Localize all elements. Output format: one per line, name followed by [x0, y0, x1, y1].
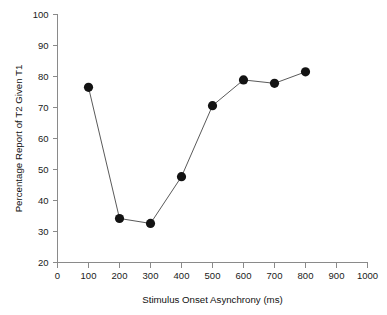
series-line: [89, 72, 306, 224]
y-tick-label: 30: [38, 226, 49, 237]
y-axis-title: Percentage Report of T2 Given T1: [13, 65, 24, 213]
x-tick-label: 0: [55, 270, 60, 281]
x-tick-label: 400: [174, 270, 190, 281]
y-axis-ticks: 2030405060708090100: [33, 9, 58, 268]
data-point-marker: [146, 219, 155, 228]
x-tick-label: 300: [143, 270, 159, 281]
x-axis-title: Stimulus Onset Asynchrony (ms): [142, 294, 283, 305]
y-tick-label: 50: [38, 164, 49, 175]
y-tick-label: 70: [38, 102, 49, 113]
data-point-marker: [177, 172, 186, 181]
y-tick-label: 20: [38, 257, 49, 268]
chart-series: [84, 67, 310, 228]
y-tick-label: 100: [33, 9, 49, 20]
y-tick-label: 40: [38, 195, 49, 206]
data-point-marker: [208, 101, 217, 110]
x-tick-label: 200: [112, 270, 128, 281]
x-tick-label: 800: [298, 270, 314, 281]
data-point-marker: [239, 75, 248, 84]
data-point-marker: [270, 79, 279, 88]
x-tick-label: 700: [267, 270, 283, 281]
x-tick-label: 500: [205, 270, 221, 281]
chart-figure: 2030405060708090100010020030040050060070…: [0, 0, 387, 315]
x-tick-label: 1000: [357, 270, 378, 281]
axis-titles: Stimulus Onset Asynchrony (ms)Percentage…: [13, 65, 283, 305]
x-tick-label: 900: [329, 270, 345, 281]
x-axis-ticks: 01002003004005006007008009001000: [55, 263, 378, 282]
data-point-marker: [84, 83, 93, 92]
chart-axes: [58, 14, 369, 263]
chart-canvas: 2030405060708090100010020030040050060070…: [0, 0, 387, 315]
data-point-marker: [301, 67, 310, 76]
x-tick-label: 600: [236, 270, 252, 281]
y-tick-label: 90: [38, 40, 49, 51]
y-tick-label: 80: [38, 71, 49, 82]
x-tick-label: 100: [81, 270, 97, 281]
data-point-marker: [115, 214, 124, 223]
y-tick-label: 60: [38, 133, 49, 144]
